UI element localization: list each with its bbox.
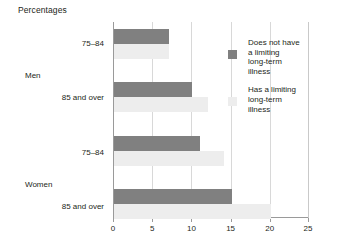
bar-women-75-84-no-illness: [114, 136, 200, 151]
legend-entry-no-illness: Does not have a limiting long-term illne…: [228, 38, 336, 76]
legend-label-no-illness-line-3: long-term: [248, 57, 336, 67]
bar-men-85-over-no-illness: [114, 82, 192, 97]
legend-label-has-illness: Has a limiting long-term illness: [248, 85, 336, 114]
category-label-women-75-84: 75–84: [82, 148, 104, 157]
tick-mark-25: [308, 218, 309, 222]
x-tick-label-5: 5: [150, 224, 154, 233]
category-label-men-85-and-over: 85 and over: [62, 93, 104, 102]
legend-entry-has-illness: Has a limiting long-term illness: [228, 85, 336, 121]
legend-label-no-illness-line-4: illness: [248, 67, 336, 77]
chart-title: Percentages: [18, 5, 67, 15]
bar-men-75-84-no-illness: [114, 29, 169, 44]
x-tick-label-25: 25: [304, 224, 313, 233]
x-tick-label-0: 0: [111, 224, 115, 233]
legend-label-no-illness-line-2: a limiting: [248, 48, 336, 58]
category-label-women-85-and-over: 85 and over: [62, 202, 104, 211]
legend-label-no-illness: Does not have a limiting long-term illne…: [248, 38, 336, 76]
bar-women-85-over-has-illness: [114, 204, 271, 219]
legend: Does not have a limiting long-term illne…: [228, 38, 336, 130]
group-label-men: Men: [25, 71, 41, 80]
bar-women-85-over-no-illness: [114, 189, 232, 204]
bar-men-75-84-has-illness: [114, 44, 169, 59]
legend-swatch-has-illness: [228, 97, 237, 106]
legend-swatch-no-illness: [228, 50, 237, 59]
bar-men-85-over-has-illness: [114, 97, 208, 112]
legend-label-has-illness-line-1: Has a limiting: [248, 85, 336, 95]
bar-women-75-84-has-illness: [114, 151, 224, 166]
x-tick-label-15: 15: [226, 224, 235, 233]
bar-chart: Percentages 75–84 Men 85 and over 75–84 …: [0, 0, 337, 250]
group-label-women: Women: [25, 180, 52, 189]
legend-label-no-illness-line-1: Does not have: [248, 38, 336, 48]
x-tick-label-20: 20: [265, 224, 274, 233]
legend-label-has-illness-line-3: illness: [248, 105, 336, 115]
x-tick-label-10: 10: [187, 224, 196, 233]
legend-label-has-illness-line-2: long-term: [248, 95, 336, 105]
category-label-men-75-84: 75–84: [82, 39, 104, 48]
